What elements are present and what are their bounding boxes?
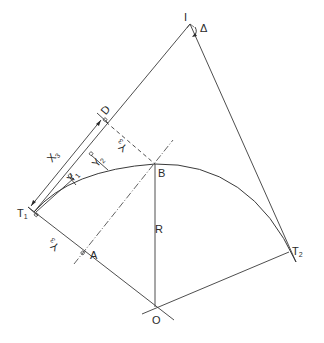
tangent-line-t1-i xyxy=(34,24,190,212)
right-angle-marker-y2 xyxy=(89,152,93,156)
label-y1: Y1 xyxy=(64,168,81,185)
label-i: I xyxy=(184,11,187,23)
label-a: A xyxy=(90,249,98,261)
parallel-line-a-b xyxy=(74,140,173,264)
label-r: R xyxy=(155,223,163,235)
label-b: B xyxy=(158,167,165,179)
label-t1: T1 xyxy=(17,207,28,220)
label-t2: T2 xyxy=(292,245,303,258)
label-y3-top: Y3 xyxy=(113,137,130,154)
label-y3-bottom: Y3 xyxy=(45,236,62,253)
label-delta: Δ xyxy=(200,22,208,34)
y3-offset-dashed xyxy=(106,122,155,164)
label-o: O xyxy=(152,314,161,326)
radius-line-o-t2 xyxy=(142,252,289,314)
curve-diagram: I Δ D B R A O T1 T2 X3 Y1 Y2 Y3 Y3 xyxy=(0,0,324,343)
tangent-line-i-t2 xyxy=(190,24,296,262)
chord-line-1 xyxy=(36,178,74,212)
radius-line-t1-o xyxy=(28,207,174,320)
label-d: D xyxy=(98,103,112,117)
label-x3: X3 xyxy=(44,148,61,165)
